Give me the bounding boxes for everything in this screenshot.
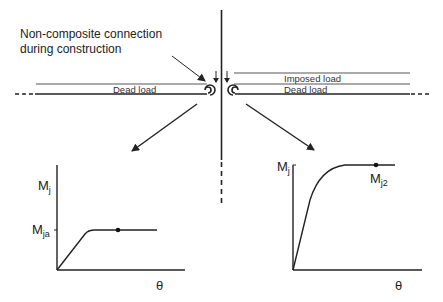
right-dead-load-label: Dead load <box>284 85 327 95</box>
left-beam <box>15 84 207 94</box>
right-chart-y-label: Mj <box>277 160 290 176</box>
annotation-arrow-icon <box>172 56 205 81</box>
arrow-to-left-chart-icon <box>132 104 197 151</box>
left-chart <box>54 165 185 270</box>
annotation-text: Non-composite connection during construc… <box>20 27 162 57</box>
mj2-point <box>374 163 379 168</box>
annotation-line-2: during construction <box>20 42 162 57</box>
mja-point <box>116 228 121 233</box>
imposed-load-label: Imposed load <box>284 74 341 84</box>
left-chart-x-label: θ <box>156 279 163 292</box>
left-chart-y-label: Mj <box>38 179 51 195</box>
right-chart-x-label: θ <box>395 279 402 292</box>
right-chart-mj2-label: Mj2 <box>370 172 388 188</box>
arrow-to-right-chart-icon <box>246 104 314 150</box>
left-dead-load-label: Dead load <box>113 85 156 95</box>
right-chart <box>293 163 422 270</box>
left-chart-mja-tick-label: Mja <box>32 223 50 239</box>
annotation-line-1: Non-composite connection <box>20 27 162 42</box>
